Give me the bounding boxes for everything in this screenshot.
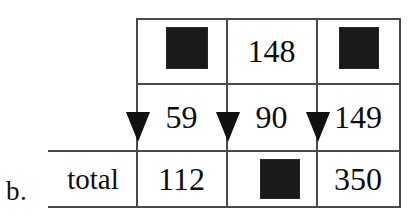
total-row-cell-3-value: 350 bbox=[317, 152, 399, 206]
table-right-rule bbox=[399, 18, 401, 207]
row-1-cell-3-redaction bbox=[339, 27, 379, 69]
row-1-cell-1-redaction bbox=[166, 27, 208, 69]
column-1-total-arrow bbox=[120, 112, 156, 156]
figure-container: b. 148 59 90 149 total 112 350 bbox=[0, 0, 416, 219]
column-2-total-arrow bbox=[210, 112, 246, 156]
total-row-cell-2-redaction bbox=[260, 159, 300, 199]
row-1-cell-2-value: 148 bbox=[227, 20, 316, 82]
part-label: b. bbox=[6, 178, 27, 205]
total-row-label: total bbox=[50, 152, 136, 206]
table-bottom-rule bbox=[48, 206, 401, 208]
column-3-total-arrow bbox=[300, 112, 336, 156]
total-row-cell-1-value: 112 bbox=[137, 152, 226, 206]
